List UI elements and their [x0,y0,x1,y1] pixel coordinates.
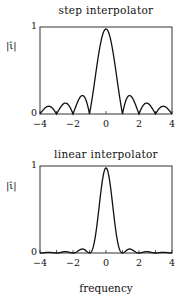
top-curve [40,29,172,114]
top-plot-frame [40,27,172,114]
bottom-curve [40,168,172,253]
plots-svg [0,0,180,300]
bottom-plot-frame [40,166,172,253]
